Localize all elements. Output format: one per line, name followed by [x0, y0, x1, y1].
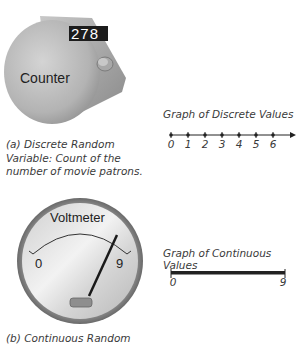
caption-line: (b) Continuous Random	[6, 332, 166, 346]
caption-line: number of movie patrons.	[6, 165, 166, 179]
tick-label: 3	[219, 138, 226, 150]
caption-continuous: (b) Continuous Random	[6, 332, 166, 346]
voltmeter-scale-min: 0	[35, 256, 42, 271]
continuous-max-label: 9	[280, 276, 287, 288]
voltmeter-scale-max: 9	[116, 256, 123, 271]
voltmeter-label: Voltmeter	[50, 210, 105, 225]
continuous-min-label: 0	[170, 276, 177, 288]
tick-label: 1	[185, 138, 192, 150]
discrete-graph-title: Graph of Discrete Values	[163, 108, 293, 120]
continuous-segment-icon	[170, 269, 286, 279]
voltmeter-illustration: Voltmeter 0 9	[15, 196, 145, 326]
tally-counter-icon	[0, 0, 130, 126]
discrete-number-line	[168, 126, 298, 138]
continuous-number-line	[170, 264, 286, 274]
tick-label: 2	[202, 138, 209, 150]
caption-discrete: (a) Discrete Random Variable: Count of t…	[6, 138, 166, 179]
discrete-tick-labels: 0 1 2 3 4 5 6	[168, 138, 298, 152]
counter-label: Counter	[20, 70, 70, 86]
tick-label: 4	[236, 138, 243, 150]
caption-line: Variable: Count of the	[6, 152, 166, 166]
tick-label: 6	[270, 138, 277, 150]
counter-display: 278	[71, 25, 99, 42]
tick-label: 5	[253, 138, 260, 150]
caption-line: (a) Discrete Random	[6, 138, 166, 152]
tick-label: 0	[168, 138, 175, 150]
counter-illustration: 278 Counter	[0, 0, 130, 126]
